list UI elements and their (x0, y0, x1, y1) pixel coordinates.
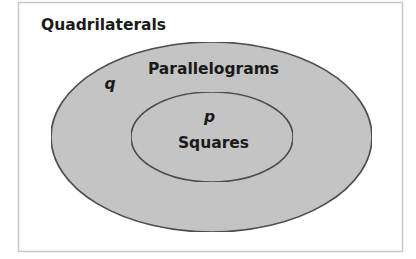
universe-label: Quadrilaterals (41, 16, 166, 34)
variable-p: p (203, 108, 215, 126)
venn-diagram: Quadrilaterals Parallelograms q p Square… (0, 0, 416, 259)
set-squares-label: Squares (178, 134, 249, 152)
variable-q: q (104, 75, 115, 93)
set-parallelograms-label: Parallelograms (148, 60, 279, 78)
